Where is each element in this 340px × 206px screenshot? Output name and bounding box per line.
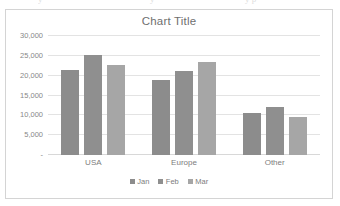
y-axis-tick-label: 20,000 <box>20 70 43 79</box>
x-axis-tick-label: USA <box>48 158 139 167</box>
y-axis-tick-label: 30,000 <box>20 31 43 40</box>
scan-artifact: y <box>38 0 43 4</box>
legend-item-feb[interactable]: Feb <box>158 177 178 186</box>
bar-group <box>229 36 320 155</box>
x-axis-tick-label: Other <box>229 158 320 167</box>
legend-swatch-icon <box>158 179 163 184</box>
y-axis-tick-label: 15,000 <box>20 90 43 99</box>
bar-group <box>139 36 230 155</box>
bar-group <box>48 36 139 155</box>
legend-item-mar[interactable]: Mar <box>188 177 208 186</box>
bar-feb-europe[interactable] <box>175 71 193 155</box>
x-axis[interactable]: USAEuropeOther <box>48 158 320 167</box>
y-axis-tick-label: 10,000 <box>20 110 43 119</box>
bar-jan-other[interactable] <box>243 113 261 155</box>
bar-feb-other[interactable] <box>266 107 284 155</box>
legend-label: Mar <box>195 177 208 186</box>
legend-item-jan[interactable]: Jan <box>130 177 150 186</box>
chart-title[interactable]: Chart Title <box>6 15 332 27</box>
plot-area[interactable]: 30,00025,00020,00015,00010,0005,000- <box>48 36 320 155</box>
scan-artifact: y <box>150 0 155 4</box>
legend-label: Jan <box>137 177 149 186</box>
legend-swatch-icon <box>188 179 193 184</box>
bar-jan-usa[interactable] <box>61 70 79 155</box>
bar-mar-usa[interactable] <box>107 65 125 155</box>
legend-label: Feb <box>166 177 179 186</box>
x-axis-tick-label: Europe <box>139 158 230 167</box>
bar-mar-europe[interactable] <box>198 62 216 155</box>
chart-legend[interactable]: JanFebMar <box>6 177 332 186</box>
y-axis-tick-label: 25,000 <box>20 50 43 59</box>
scan-artifact: y p <box>245 0 256 4</box>
bar-mar-other[interactable] <box>289 117 307 155</box>
bar-feb-usa[interactable] <box>84 55 102 155</box>
y-axis-tick-label: 5,000 <box>24 130 43 139</box>
bar-jan-europe[interactable] <box>152 80 170 155</box>
legend-swatch-icon <box>130 179 135 184</box>
y-axis-tick-label: - <box>41 150 44 159</box>
bars-layer <box>48 36 320 155</box>
chart-container[interactable]: Chart Title 30,00025,00020,00015,00010,0… <box>5 9 333 199</box>
